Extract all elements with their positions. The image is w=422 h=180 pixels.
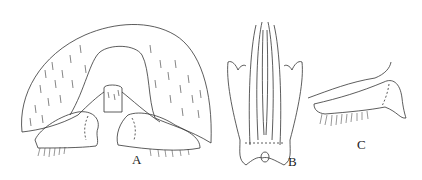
panel-label-c: C — [357, 137, 366, 153]
panel-label-a: A — [132, 152, 141, 168]
panel-b-drawing — [228, 22, 303, 165]
figure: A B C — [0, 0, 422, 180]
panel-label-b: B — [288, 154, 297, 170]
panel-c-drawing — [308, 62, 406, 126]
panel-a-drawing — [22, 24, 212, 157]
